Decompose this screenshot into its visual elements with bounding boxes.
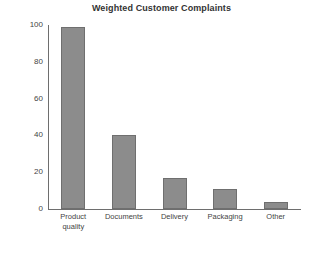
x-tick-label-line: Documents	[99, 212, 150, 222]
x-tick-label: Other	[250, 212, 301, 222]
x-tick-label: Productquality	[48, 212, 99, 231]
bar	[61, 27, 85, 209]
x-axis-line	[48, 209, 301, 210]
bar	[213, 189, 237, 209]
bar	[163, 178, 187, 209]
y-tick-label: 60	[3, 95, 43, 103]
x-axis-tick-labels: ProductqualityDocumentsDeliveryPackaging…	[48, 212, 301, 250]
x-tick-label: Documents	[99, 212, 150, 222]
chart-title: Weighted Customer Complaints	[0, 3, 323, 13]
y-tick-label: 100	[3, 21, 43, 29]
x-tick-label-line: quality	[48, 222, 99, 232]
x-tick-label: Delivery	[149, 212, 200, 222]
y-tick-label: 80	[3, 58, 43, 66]
y-tick-label: 40	[3, 131, 43, 139]
y-tick-label: 20	[3, 168, 43, 176]
bar	[264, 202, 288, 209]
bars-layer	[48, 25, 301, 209]
y-tick-label: 0	[3, 205, 43, 213]
bar	[112, 135, 136, 209]
y-axis-tick-labels: 020406080100	[0, 0, 43, 253]
x-tick-label-line: Delivery	[149, 212, 200, 222]
x-tick-label-line: Product	[48, 212, 99, 222]
x-tick-label-line: Other	[250, 212, 301, 222]
x-tick-label-line: Packaging	[200, 212, 251, 222]
x-tick-label: Packaging	[200, 212, 251, 222]
bar-chart: Weighted Customer Complaints 02040608010…	[0, 0, 323, 253]
